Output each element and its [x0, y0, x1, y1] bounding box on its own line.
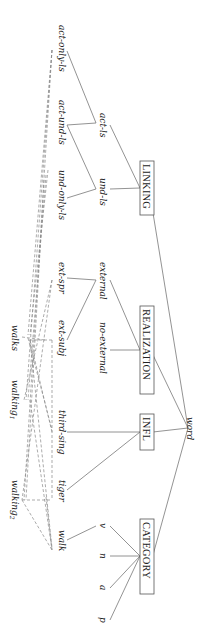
- node-category: CATEGORY: [140, 519, 154, 594]
- node-p: p: [98, 617, 108, 623]
- node-linking: LINKING: [140, 161, 154, 215]
- node-walking-1: walking1: [9, 380, 21, 420]
- node-und-only-ls: und-only-ls: [57, 170, 67, 220]
- node-und-ls: und-ls: [98, 178, 108, 206]
- node-tiger: tiger: [57, 480, 67, 503]
- node-infl: INFL: [140, 414, 154, 450]
- node-no-external: no-external: [98, 322, 108, 374]
- node-ext-spr: ext-spr: [57, 262, 67, 294]
- node-third-sing: third-sing: [57, 410, 67, 455]
- svg-text:walking1: walking1: [9, 380, 21, 420]
- type-hierarchy-diagram: LINKING REALIZATION INFL CATEGORY word a…: [0, 0, 210, 644]
- svg-text:LINKING: LINKING: [141, 164, 152, 209]
- node-word: word: [185, 417, 195, 440]
- node-ext-subj: ext-subj: [57, 320, 67, 356]
- lexical-dashed-edges: [22, 50, 52, 550]
- node-walks: walks: [10, 325, 20, 351]
- hierarchy-edges: [67, 51, 188, 620]
- node-act-ls: act-ls: [98, 113, 108, 138]
- node-realization: REALIZATION: [140, 306, 154, 394]
- node-act-und-ls: act-und-ls: [57, 100, 67, 145]
- node-external: external: [98, 262, 108, 300]
- node-act-only-ls: act-only-ls: [57, 25, 67, 72]
- node-n: n: [98, 553, 108, 559]
- svg-text:walking2: walking2: [9, 480, 21, 520]
- svg-text:REALIZATION: REALIZATION: [141, 309, 152, 380]
- node-walk: walk: [57, 530, 67, 551]
- svg-text:CATEGORY: CATEGORY: [141, 522, 152, 579]
- svg-text:INFL: INFL: [141, 417, 152, 441]
- node-walking-2: walking2: [9, 480, 21, 520]
- node-v: v: [98, 523, 108, 528]
- node-a: a: [98, 585, 108, 590]
